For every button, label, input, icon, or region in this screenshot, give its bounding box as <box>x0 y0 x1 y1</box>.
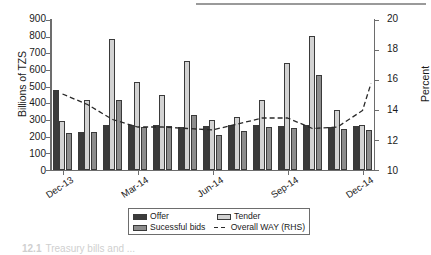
y-tick-left-500: 500 <box>16 81 46 93</box>
legend-label-tender: Tender <box>234 212 260 221</box>
figure-caption-number: 12.1 <box>22 243 41 254</box>
chart-legend: Offer Tender Sucessful bids Overall WAY … <box>128 208 310 235</box>
y-tick-mark-right-20 <box>375 20 379 21</box>
y-tick-left-600: 600 <box>16 64 46 76</box>
y-tick-mark-right-16 <box>375 80 379 81</box>
y-tick-right-12: 12 <box>387 135 417 147</box>
legend-row-1: Offer Tender <box>133 211 305 222</box>
legend-swatch-successful-bids-icon <box>133 225 147 231</box>
y-tick-right-14: 14 <box>387 104 417 116</box>
x-tick-label-dec-13: Dec-13 <box>35 174 74 205</box>
figure-caption-text: Treasury bills and ... <box>45 243 135 254</box>
legend-item-successful-bids: Sucessful bids <box>133 223 214 232</box>
legend-item-offer: Offer <box>133 212 217 221</box>
legend-swatch-offer-icon <box>133 214 147 220</box>
y-tick-right-20: 20 <box>387 13 417 25</box>
y-tick-left-400: 400 <box>16 97 46 109</box>
y-axis-right-title: Percent <box>419 29 431 139</box>
y-tick-right-16: 16 <box>387 73 417 85</box>
y-tick-left-800: 800 <box>16 30 46 42</box>
x-tick-label-mar-14: Mar-14 <box>110 174 149 205</box>
y-tick-mark-right-10 <box>375 170 379 171</box>
legend-item-way: Overall WAY (RHS) <box>214 223 305 232</box>
x-axis-tick-labels: Dec-13Mar-14Jun-14Sep-14Dec-14 <box>0 174 426 204</box>
legend-item-tender: Tender <box>217 212 305 221</box>
legend-label-successful-bids: Sucessful bids <box>150 223 205 232</box>
y-tick-left-200: 200 <box>16 131 46 143</box>
y-axis-right-ticks: 20 18 16 14 12 10 <box>387 0 417 180</box>
way-line-path <box>63 84 372 131</box>
y-tick-left-300: 300 <box>16 114 46 126</box>
legend-swatch-tender-icon <box>217 214 231 220</box>
x-tick-label-dec-14: Dec-14 <box>335 174 374 205</box>
way-line-series <box>50 19 375 171</box>
y-tick-mark-right-12 <box>375 140 379 141</box>
figure-caption: 12.1Treasury bills and ... <box>22 243 135 255</box>
legend-swatch-dashed-line-icon <box>214 225 228 231</box>
y-axis-left-ticks: 900 800 700 600 500 400 300 200 100 0 <box>16 0 46 180</box>
plot-area <box>50 19 375 171</box>
x-tick-label-jun-14: Jun-14 <box>185 174 224 205</box>
x-tick-label-sep-14: Sep-14 <box>260 174 299 205</box>
y-tick-right-18: 18 <box>387 43 417 55</box>
y-tick-left-700: 700 <box>16 47 46 59</box>
legend-label-way: Overall WAY (RHS) <box>231 223 305 232</box>
legend-label-offer: Offer <box>150 212 169 221</box>
y-tick-left-100: 100 <box>16 148 46 160</box>
y-tick-left-900: 900 <box>16 13 46 25</box>
y-tick-mark-right-14 <box>375 110 379 111</box>
y-tick-mark-right-18 <box>375 50 379 51</box>
legend-row-2: Sucessful bids Overall WAY (RHS) <box>133 222 305 233</box>
